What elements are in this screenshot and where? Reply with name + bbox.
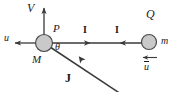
label-velocity-u-left: u bbox=[4, 33, 9, 43]
label-impulse-I-left: I bbox=[83, 25, 87, 35]
right-body-circle bbox=[142, 35, 157, 50]
label-mass-M: M bbox=[32, 54, 41, 65]
left-body-circle bbox=[36, 35, 53, 52]
label-velocity-u-right: u bbox=[144, 62, 149, 72]
physics-diagram: V P M u θ I I Q m u J bbox=[0, 0, 174, 92]
label-impulse-J: J bbox=[65, 72, 71, 84]
label-point-Q: Q bbox=[146, 8, 155, 20]
label-impulse-I-right: I bbox=[115, 25, 119, 35]
label-velocity-u-right-text: u bbox=[144, 62, 149, 72]
label-velocity-V: V bbox=[27, 2, 34, 14]
label-point-P: P bbox=[53, 23, 60, 34]
impulse-J-arrowhead bbox=[79, 56, 86, 63]
label-mass-m: m bbox=[161, 36, 168, 46]
label-angle-theta: θ bbox=[55, 42, 60, 52]
